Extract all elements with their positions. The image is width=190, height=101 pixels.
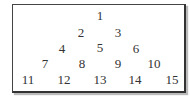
triangle-number: 9 [115,56,122,72]
triangle-number: 13 [94,72,107,88]
triangle-number: 8 [79,56,86,72]
triangle-number: 1 [97,8,104,24]
triangle-number: 5 [97,40,104,56]
triangle-number: 12 [58,72,71,88]
triangle-number: 7 [42,56,49,72]
triangle-number: 2 [78,25,85,41]
triangle-number: 3 [115,25,122,41]
triangle-number: 15 [166,72,179,88]
triangle-number: 4 [59,41,66,57]
triangle-number: 6 [133,41,140,57]
triangle-number: 11 [22,72,35,88]
triangle-number: 10 [148,56,161,72]
triangle-number: 14 [129,72,142,88]
